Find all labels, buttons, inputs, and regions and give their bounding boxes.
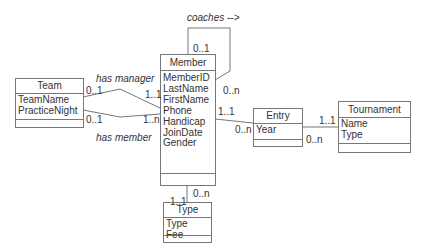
multiplicity-team-manager: 0..1: [86, 85, 103, 96]
has-manager-label: has manager: [96, 73, 154, 84]
multiplicity-member-member: 1..n: [143, 114, 160, 125]
class-type-attributes: Type Fee: [164, 218, 211, 236]
multiplicity-entry-tournament-entry: 0..n: [306, 134, 323, 145]
class-entry-name: Entry: [254, 109, 302, 124]
has-member-label: has member: [96, 132, 152, 143]
multiplicity-entry-tournament-tournament: 1..1: [319, 115, 336, 126]
class-entry[interactable]: Entry Year: [253, 108, 303, 147]
multiplicity-member-manager: 1..1: [145, 89, 162, 100]
coaches-label: coaches -->: [187, 12, 240, 23]
multiplicity-member-entry-entry: 0..n: [235, 124, 252, 135]
multiplicity-member-entry-member: 1..1: [218, 106, 235, 117]
attribute: Type: [341, 130, 409, 141]
attribute: PracticeNight: [18, 106, 82, 117]
class-entry-attributes: Year: [254, 124, 302, 140]
class-team-name: Team: [16, 79, 83, 94]
class-member-name: Member: [161, 55, 215, 71]
class-member[interactable]: Member MemberID LastName FirstName Phone…: [160, 54, 216, 186]
class-tournament-attributes: Name Type: [339, 118, 410, 144]
attribute: Handicap: [163, 117, 214, 128]
class-team-attributes: TeamName PracticeNight: [16, 94, 83, 120]
multiplicity-coaches-bottom: 0..n: [223, 85, 240, 96]
attribute: Phone: [163, 106, 214, 117]
class-team[interactable]: Team TeamName PracticeNight: [15, 78, 84, 128]
attribute: Fee: [166, 230, 210, 241]
multiplicity-member-type-member: 0..n: [193, 188, 210, 199]
class-tournament[interactable]: Tournament Name Type: [338, 101, 411, 153]
class-member-attributes: MemberID LastName FirstName Phone Handic…: [161, 71, 215, 174]
member-entry-line: [215, 119, 253, 123]
attribute: Year: [256, 125, 301, 136]
multiplicity-coaches-top: 0..1: [193, 43, 210, 54]
class-type[interactable]: Type Type Fee: [163, 202, 212, 243]
attribute: Gender: [163, 138, 214, 149]
multiplicity-member-type-type: 1..1: [170, 196, 187, 207]
class-tournament-name: Tournament: [339, 102, 410, 118]
multiplicity-team-member: 0..1: [86, 114, 103, 125]
